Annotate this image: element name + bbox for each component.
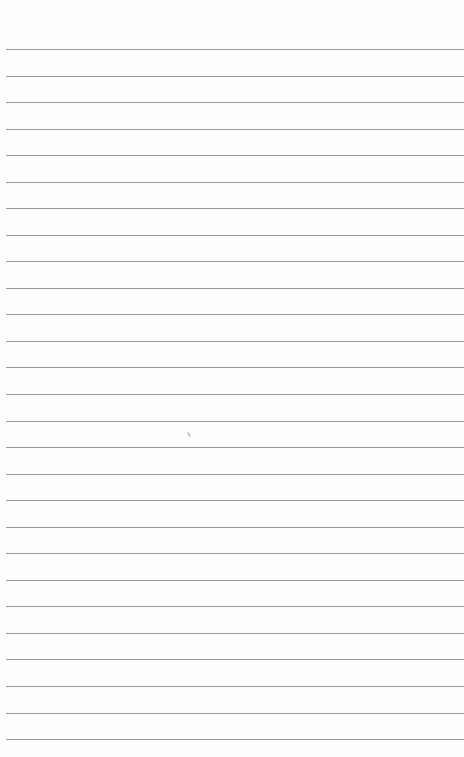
ruled-line	[6, 367, 464, 368]
ruled-line	[6, 686, 464, 687]
ruled-line	[6, 76, 464, 77]
ruled-line	[6, 659, 464, 660]
ruled-line	[6, 49, 464, 50]
ruled-line	[6, 500, 464, 501]
ruled-line	[6, 341, 464, 342]
ruled-line	[6, 182, 464, 183]
ruled-line	[6, 739, 464, 740]
ruled-line	[6, 155, 464, 156]
ruled-line	[6, 633, 464, 634]
ruled-line	[6, 527, 464, 528]
ruled-line	[6, 713, 464, 714]
ruled-line	[6, 235, 464, 236]
ruled-line	[6, 421, 464, 422]
ruled-line	[6, 129, 464, 130]
ruled-line	[6, 394, 464, 395]
ruled-line	[6, 580, 464, 581]
ruled-line	[6, 288, 464, 289]
paper-speck-mark	[187, 432, 191, 437]
ruled-line	[6, 447, 464, 448]
ruled-line	[6, 606, 464, 607]
ruled-line	[6, 553, 464, 554]
ruled-line	[6, 102, 464, 103]
ruled-line	[6, 261, 464, 262]
ruled-line	[6, 314, 464, 315]
ruled-line	[6, 474, 464, 475]
ruled-line	[6, 208, 464, 209]
lined-paper-page	[0, 0, 464, 757]
